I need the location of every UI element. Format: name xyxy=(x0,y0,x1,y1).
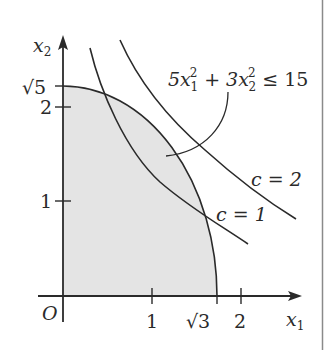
origin-label: O xyxy=(42,302,58,324)
y-tick-label-1: 1 xyxy=(40,190,52,212)
level-curve-label-c2: c = 2 xyxy=(251,168,302,190)
y-axis-label: x2 xyxy=(33,34,51,59)
feasible-region-diagram: 1 √3 2 1 2 √5 O x1 x2 5x21 + 3x22 ≤ 15 c… xyxy=(0,0,330,350)
constraint-label: 5x21 + 3x22 ≤ 15 xyxy=(168,66,308,94)
annotation-leader xyxy=(166,92,228,156)
feasible-region xyxy=(63,86,217,296)
x-tick-label-2: 2 xyxy=(234,310,246,332)
x-tick-label-sqrt3: √3 xyxy=(186,310,210,332)
level-curve-label-c1: c = 1 xyxy=(216,203,267,225)
y-tick-label-sqrt5: √5 xyxy=(22,76,46,98)
x-axis-label: x1 xyxy=(286,308,304,333)
x-tick-label-1: 1 xyxy=(146,310,158,332)
y-tick-label-2: 2 xyxy=(40,96,52,118)
